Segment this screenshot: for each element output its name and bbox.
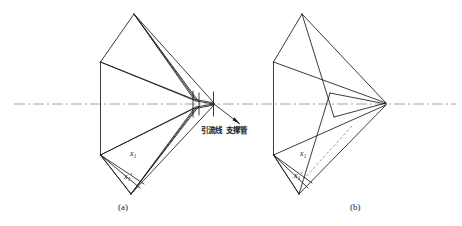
leader-arrowhead (233, 117, 241, 124)
annotation-lead-wire: 引流线 (201, 127, 222, 135)
panel-b-dashed-guide (303, 126, 352, 180)
panel-a-edge-apex-upperleft (101, 14, 135, 62)
panel-a-dim-x1: x₁ (130, 150, 136, 158)
technical-diagram-svg (0, 0, 462, 226)
panel-a-rib-x1-outer (101, 155, 141, 188)
annotation-support-tube: 支撑管 (226, 127, 247, 135)
panel-a-edge-apex-tip (134, 14, 214, 103)
panel-b-rib-x1-outer (274, 155, 309, 188)
panel-a-annotation-leader (214, 104, 240, 124)
panel-b-edge-apex-fold (302, 14, 334, 117)
panel-b-fold-to-tip (334, 103, 386, 117)
panel-a-rib-x1-inner (101, 155, 145, 184)
panel-b-dim-x1-prime: x₁′ (294, 172, 302, 180)
panel-b-chord-lower (274, 105, 387, 155)
panel-a-edge-base-hub-c (131, 106, 199, 194)
figure-page: 引流线 支撑管 x₁ x₁′ x₁ x₁′ (a) (b) (0, 0, 462, 226)
panel-b-caption: (b) (350, 203, 361, 212)
panel-b-edge-base-tip (299, 105, 386, 194)
panel-a-chord-lower-b (101, 107, 197, 155)
panel-b-edge-apex-tip (302, 14, 386, 103)
panel-b-edge-apex-upperleft (274, 14, 303, 62)
panel-b-chord-upper (274, 62, 387, 103)
panel-b-rib-x1-inner (274, 155, 313, 183)
panel-a-dim-x1-prime: x₁′ (124, 173, 132, 181)
panel-a-caption: (a) (118, 203, 128, 212)
panel-b-dim-x1: x₁ (300, 150, 306, 158)
